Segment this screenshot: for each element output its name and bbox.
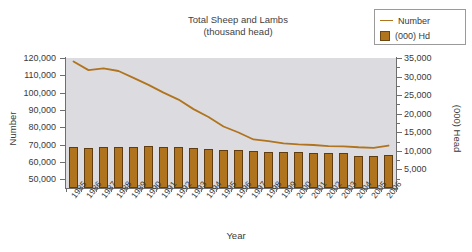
x-tick-mark bbox=[126, 188, 127, 192]
chart-container: Total Sheep and Lambs (thousand head) Nu… bbox=[0, 0, 472, 252]
x-tick-mark bbox=[111, 188, 112, 192]
y-tick-minor-right bbox=[396, 67, 400, 68]
y-tick-label-right: 10,000 bbox=[404, 146, 452, 156]
legend-square-swatch-icon bbox=[380, 31, 390, 41]
y-tick-label-left: 100,000 bbox=[4, 88, 56, 98]
y-tick-mark-right bbox=[396, 132, 402, 133]
x-tick-mark bbox=[171, 188, 172, 192]
y-tick-minor-right bbox=[396, 142, 400, 143]
x-tick-mark bbox=[201, 188, 202, 192]
chart-title-main: Total Sheep and Lambs bbox=[118, 14, 358, 26]
y-tick-label-right: 15,000 bbox=[404, 127, 452, 137]
y-tick-mark-left bbox=[60, 179, 66, 180]
y-tick-minor-right bbox=[396, 123, 400, 124]
legend-label-number: Number bbox=[398, 16, 430, 26]
x-tick-mark bbox=[96, 188, 97, 192]
x-tick-mark bbox=[156, 188, 157, 192]
y-tick-mark-right bbox=[396, 77, 402, 78]
y-tick-label-right: 25,000 bbox=[404, 90, 452, 100]
y-tick-label-right: 20,000 bbox=[404, 109, 452, 119]
y-tick-mark-right bbox=[396, 114, 402, 115]
legend-label-hd: (000) Hd bbox=[395, 31, 430, 41]
legend-item-hd: (000) Hd bbox=[380, 28, 461, 43]
y-tick-label-left: 110,000 bbox=[4, 70, 56, 80]
y-tick-label-right: 5,000 bbox=[404, 164, 452, 174]
line-series-path bbox=[74, 61, 389, 147]
y-tick-mark-right bbox=[396, 58, 402, 59]
chart-title: Total Sheep and Lambs (thousand head) bbox=[118, 14, 358, 38]
y-tick-mark-right bbox=[396, 95, 402, 96]
x-tick-mark bbox=[336, 188, 337, 192]
y-tick-minor-right bbox=[396, 160, 400, 161]
x-tick-mark bbox=[231, 188, 232, 192]
y-tick-mark-right bbox=[396, 151, 402, 152]
x-axis-title: Year bbox=[186, 230, 286, 241]
y-tick-label-right: 35,000 bbox=[404, 53, 452, 63]
y-tick-minor-right bbox=[396, 104, 400, 105]
y-tick-mark-left bbox=[60, 110, 66, 111]
legend-line-swatch-icon bbox=[380, 20, 393, 21]
x-tick-mark bbox=[261, 188, 262, 192]
x-tick-mark bbox=[81, 188, 82, 192]
x-tick-mark bbox=[141, 188, 142, 192]
y-tick-label-left: 120,000 bbox=[4, 53, 56, 63]
x-tick-mark bbox=[66, 188, 67, 192]
y-tick-label-left: 60,000 bbox=[4, 157, 56, 167]
x-tick-mark bbox=[381, 188, 382, 192]
x-tick-mark bbox=[276, 188, 277, 192]
y-tick-mark-left bbox=[60, 93, 66, 94]
chart-legend: Number (000) Hd bbox=[374, 9, 466, 45]
x-tick-mark bbox=[396, 188, 397, 192]
y-tick-minor-right bbox=[396, 86, 400, 87]
y-axis-left-title: Number bbox=[7, 99, 18, 159]
line-series-layer bbox=[66, 58, 396, 188]
x-tick-mark bbox=[186, 188, 187, 192]
x-tick-mark bbox=[216, 188, 217, 192]
y-tick-mark-right bbox=[396, 169, 402, 170]
chart-title-subtitle: (thousand head) bbox=[118, 26, 358, 38]
x-tick-mark bbox=[246, 188, 247, 192]
y-axis-right-title: (000) Head bbox=[452, 96, 463, 162]
y-tick-label-right: 30,000 bbox=[404, 72, 452, 82]
x-tick-mark bbox=[291, 188, 292, 192]
x-tick-mark bbox=[321, 188, 322, 192]
legend-item-number: Number bbox=[380, 13, 461, 28]
x-tick-mark bbox=[366, 188, 367, 192]
y-tick-mark-left bbox=[60, 75, 66, 76]
y-tick-mark-left bbox=[60, 58, 66, 59]
y-tick-mark-left bbox=[60, 162, 66, 163]
y-tick-mark-left bbox=[60, 127, 66, 128]
y-tick-mark-left bbox=[60, 145, 66, 146]
x-tick-mark bbox=[306, 188, 307, 192]
y-tick-label-left: 50,000 bbox=[4, 174, 56, 184]
x-tick-mark bbox=[351, 188, 352, 192]
